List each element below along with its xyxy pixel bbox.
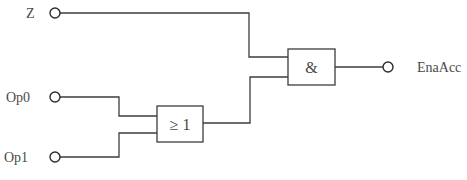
input-pin-z-icon — [50, 8, 60, 18]
input-label-z: Z — [26, 6, 35, 21]
wire-op0-to-or — [60, 97, 157, 116]
and-gate-symbol: & — [305, 59, 318, 76]
logic-diagram: Z Op0 Op1 ≥ 1 & EnaAcc — [0, 0, 467, 180]
input-label-op1: Op1 — [4, 150, 28, 165]
wire-z-to-and — [60, 13, 288, 57]
output-label-enaacc: EnaAcc — [417, 60, 461, 75]
output-pin-enaacc-icon — [383, 62, 393, 72]
input-pin-op0-icon — [50, 92, 60, 102]
input-label-op0: Op0 — [6, 90, 30, 105]
input-pin-op1-icon — [50, 152, 60, 162]
wire-or-to-and — [203, 77, 288, 123]
wire-op1-to-or — [60, 133, 157, 157]
or-gate-symbol: ≥ 1 — [170, 116, 191, 133]
